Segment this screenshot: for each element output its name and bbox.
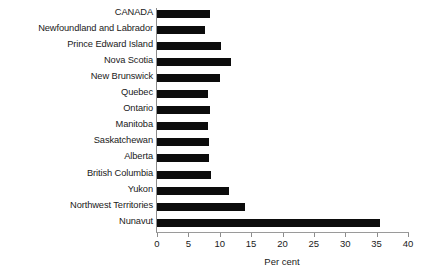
x-axis-title: Per cent (0, 256, 440, 267)
category-label: British Columbia (87, 168, 153, 178)
x-axis-tick (220, 233, 221, 237)
category-label: Newfoundland and Labrador (38, 23, 153, 33)
bar (157, 42, 221, 50)
x-axis-tick (283, 233, 284, 237)
x-axis-tick-label: 15 (239, 238, 263, 249)
plot-area (157, 8, 408, 233)
bar (157, 187, 229, 195)
bar-chart: CANADANewfoundland and LabradorPrince Ed… (0, 0, 440, 277)
bar (157, 219, 380, 227)
bar (157, 26, 205, 34)
x-axis-tick (314, 233, 315, 237)
x-axis-tick-label: 20 (271, 238, 295, 249)
bar (157, 154, 209, 162)
x-axis-tick-label: 30 (333, 238, 357, 249)
x-axis-title-text: Per cent (264, 256, 299, 267)
x-axis-tick-label: 25 (302, 238, 326, 249)
category-label: Prince Edward Island (67, 39, 153, 49)
x-axis-tick (345, 233, 346, 237)
x-axis-tick-label: 0 (145, 238, 169, 249)
x-axis-tick-label: 35 (365, 238, 389, 249)
category-label: Manitoba (116, 119, 153, 129)
category-label: Nova Scotia (104, 55, 153, 65)
category-label: Alberta (124, 151, 153, 161)
bar (157, 58, 231, 66)
category-label: New Brunswick (91, 71, 153, 81)
bar (157, 106, 210, 114)
x-axis-tick (377, 233, 378, 237)
bar (157, 122, 208, 130)
x-axis-tick (157, 233, 158, 237)
category-label: Nunavut (119, 216, 153, 226)
bar (157, 90, 208, 98)
category-label: CANADA (115, 7, 153, 17)
x-axis-tick-label: 5 (176, 238, 200, 249)
x-axis-tick-label: 10 (208, 238, 232, 249)
x-axis-tick (188, 233, 189, 237)
category-label: Ontario (123, 103, 153, 113)
x-axis-tick (251, 233, 252, 237)
x-axis-tick (408, 233, 409, 237)
category-label: Quebec (121, 87, 153, 97)
category-label: Saskatchewan (94, 135, 153, 145)
bar (157, 171, 211, 179)
bar (157, 138, 209, 146)
bar (157, 203, 245, 211)
bar (157, 74, 220, 82)
category-label: Northwest Territories (70, 200, 153, 210)
category-axis-labels: CANADANewfoundland and LabradorPrince Ed… (0, 0, 153, 233)
bar (157, 10, 210, 18)
x-axis-tick-label: 40 (396, 238, 420, 249)
category-label: Yukon (128, 184, 153, 194)
y-axis-line (156, 8, 157, 233)
